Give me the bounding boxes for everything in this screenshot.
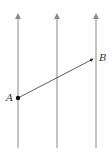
point-a-dot xyxy=(16,96,20,100)
field-diagram xyxy=(0,0,109,156)
point-a-label: A xyxy=(6,92,13,103)
displacement-vector xyxy=(18,59,93,98)
point-b-label: B xyxy=(99,52,106,63)
